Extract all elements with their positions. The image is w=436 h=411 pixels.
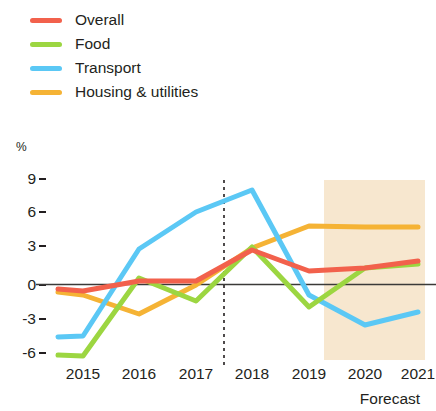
plot-area [0, 0, 436, 411]
forecast-caption: Forecast [360, 391, 420, 407]
x-tick-label-2016: 2016 [122, 366, 156, 382]
x-tick-label-2018: 2018 [235, 366, 269, 382]
x-tick-label-2020: 2020 [348, 366, 382, 382]
x-tick-label-2021: 2021 [401, 366, 435, 382]
x-tick-label-2015: 2015 [66, 366, 100, 382]
chart-container: Overall Food Transport Housing & utiliti… [0, 0, 436, 411]
x-tick-label-2019: 2019 [292, 366, 326, 382]
x-tick-label-2017: 2017 [179, 366, 213, 382]
